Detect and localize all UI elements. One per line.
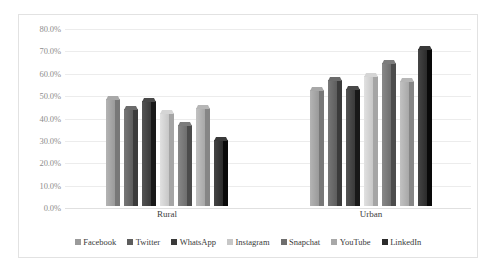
bar-face bbox=[364, 76, 373, 206]
bar-face bbox=[346, 89, 355, 206]
bar-side bbox=[223, 140, 228, 206]
bar-twitter-rural bbox=[124, 109, 138, 206]
bar-top-face bbox=[310, 87, 324, 91]
bar-face bbox=[178, 125, 187, 206]
bar-side bbox=[169, 113, 174, 206]
bar-side bbox=[355, 89, 360, 206]
bar-chart: 0.0%10.0%20.0%30.0%40.0%50.0%60.0%70.0%8… bbox=[18, 14, 478, 258]
bar-top-face bbox=[142, 98, 156, 102]
bar-face bbox=[310, 90, 319, 206]
bar-side bbox=[205, 108, 210, 206]
bar-side bbox=[319, 90, 324, 206]
bar-whatsapp-urban bbox=[346, 89, 360, 206]
x-axis-label-urban: Urban bbox=[360, 209, 383, 219]
y-axis-tick-label: 50.0% bbox=[40, 92, 61, 101]
bar-face bbox=[106, 99, 115, 206]
y-axis-tick-label: 30.0% bbox=[40, 137, 61, 146]
bar-top-face bbox=[160, 110, 174, 114]
legend-swatch-icon bbox=[171, 239, 177, 245]
legend-label: LinkedIn bbox=[390, 238, 421, 247]
bar-side bbox=[115, 99, 120, 206]
legend-item-instagram[interactable]: Instagram bbox=[227, 238, 270, 247]
bar-facebook-rural bbox=[106, 99, 120, 206]
bar-side bbox=[373, 76, 378, 206]
plot-area: 0.0%10.0%20.0%30.0%40.0%50.0%60.0%70.0%8… bbox=[19, 15, 477, 257]
bar-top-face bbox=[328, 77, 342, 81]
bar-top-face bbox=[400, 78, 414, 82]
bar-top-face bbox=[214, 137, 228, 141]
bar-top-face bbox=[106, 96, 120, 100]
bar-top-face bbox=[346, 86, 360, 90]
bar-face bbox=[328, 80, 337, 206]
bar-face bbox=[382, 63, 391, 206]
bar-side bbox=[151, 101, 156, 206]
bar-twitter-urban bbox=[328, 80, 342, 206]
legend-label: YouTube bbox=[340, 238, 371, 247]
bar-face bbox=[142, 101, 151, 206]
x-axis-category-labels: RuralUrban bbox=[65, 209, 471, 223]
x-axis-label-rural: Rural bbox=[157, 209, 177, 219]
legend-item-snapchat[interactable]: Snapchat bbox=[281, 238, 321, 247]
legend-label: WhatsApp bbox=[180, 238, 216, 247]
legend-swatch-icon bbox=[331, 239, 337, 245]
bar-face bbox=[400, 81, 409, 206]
bar-whatsapp-rural bbox=[142, 101, 156, 206]
bar-side bbox=[337, 80, 342, 206]
y-axis-tick-label: 20.0% bbox=[40, 159, 61, 168]
legend-swatch-icon bbox=[75, 239, 81, 245]
legend-swatch-icon bbox=[382, 239, 388, 245]
bar-top-face bbox=[124, 106, 138, 110]
legend-label: Twitter bbox=[136, 238, 160, 247]
y-axis-tick-label: 0.0% bbox=[44, 204, 61, 213]
bar-facebook-urban bbox=[310, 90, 324, 206]
y-axis-tick-label: 80.0% bbox=[40, 25, 61, 34]
bar-top-face bbox=[196, 105, 210, 109]
bar-face bbox=[160, 113, 169, 206]
bar-side bbox=[187, 125, 192, 206]
legend-swatch-icon bbox=[281, 239, 287, 245]
bar-youtube-rural bbox=[196, 108, 210, 206]
bar-snapchat-urban bbox=[382, 63, 396, 206]
y-axis-tick-label: 10.0% bbox=[40, 181, 61, 190]
chart-legend: FacebookTwitterWhatsAppInstagramSnapchat… bbox=[19, 235, 477, 249]
y-axis: 0.0%10.0%20.0%30.0%40.0%50.0%60.0%70.0%8… bbox=[19, 15, 65, 257]
bar-top-face bbox=[178, 122, 192, 126]
bar-instagram-rural bbox=[160, 113, 174, 206]
bar-face bbox=[124, 109, 133, 206]
legend-label: Instagram bbox=[236, 238, 270, 247]
y-axis-tick-label: 70.0% bbox=[40, 47, 61, 56]
y-axis-tick-label: 60.0% bbox=[40, 70, 61, 79]
legend-item-whatsapp[interactable]: WhatsApp bbox=[171, 238, 216, 247]
bar-face bbox=[196, 108, 205, 206]
y-axis-tick-label: 40.0% bbox=[40, 114, 61, 123]
bar-top-face bbox=[382, 60, 396, 64]
bar-side bbox=[391, 63, 396, 206]
bar-face bbox=[418, 49, 427, 206]
legend-label: Snapchat bbox=[289, 238, 320, 247]
bar-side bbox=[133, 109, 138, 206]
bar-linkedin-rural bbox=[214, 140, 228, 206]
bar-instagram-urban bbox=[364, 76, 378, 206]
bar-linkedin-urban bbox=[418, 49, 432, 206]
bar-top-face bbox=[364, 73, 378, 77]
legend-swatch-icon bbox=[227, 239, 233, 245]
bar-top-face bbox=[418, 46, 432, 50]
bar-side bbox=[409, 81, 414, 206]
bar-face bbox=[214, 140, 223, 206]
legend-label: Facebook bbox=[83, 238, 116, 247]
legend-swatch-icon bbox=[127, 239, 133, 245]
legend-item-linkedin[interactable]: LinkedIn bbox=[382, 238, 422, 247]
bar-snapchat-rural bbox=[178, 125, 192, 206]
legend-item-youtube[interactable]: YouTube bbox=[331, 238, 370, 247]
legend-item-facebook[interactable]: Facebook bbox=[75, 238, 117, 247]
legend-item-twitter[interactable]: Twitter bbox=[127, 238, 160, 247]
bar-side bbox=[427, 49, 432, 206]
bar-youtube-urban bbox=[400, 81, 414, 206]
